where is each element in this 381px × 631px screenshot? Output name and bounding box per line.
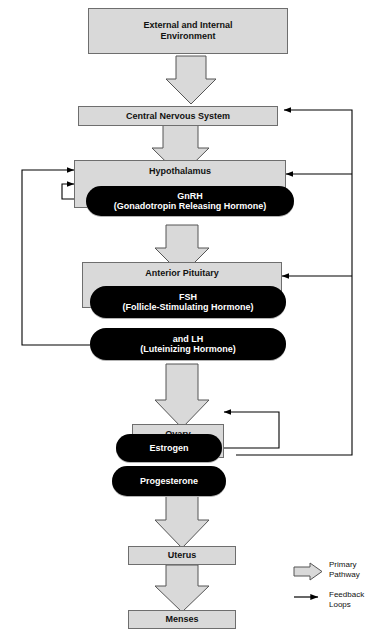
pill-fsh-line1: FSH: [179, 292, 197, 303]
legend-primary-line2: Pathway: [329, 570, 360, 580]
box-external-environment-line1: External and Internal: [143, 20, 232, 31]
arrow-external-to-cns: [166, 56, 216, 104]
pill-lh-line2: (Luteinizing Hormone): [140, 344, 236, 355]
pill-estrogen: Estrogen: [116, 434, 222, 462]
box-uterus: Uterus: [128, 546, 236, 565]
legend-feedback-line1: Feedback: [329, 590, 364, 600]
pill-progesterone-label: Progesterone: [140, 476, 198, 487]
box-central-nervous-system-label: Central Nervous System: [126, 111, 230, 122]
feedback-estrogen-to-ovary: [222, 412, 279, 448]
legend-glyphs: [294, 563, 322, 597]
box-external-environment: External and Internal Environment: [88, 8, 288, 54]
pill-fsh: FSH (Follicle-Stimulating Hormone): [90, 286, 286, 318]
pill-fsh-line2: (Follicle-Stimulating Hormone): [122, 302, 253, 313]
box-menses-label: Menses: [165, 614, 198, 625]
box-anterior-pituitary-label: Anterior Pituitary: [145, 268, 219, 279]
pill-gnrh-line1: GnRH: [177, 191, 203, 202]
box-hypothalamus-label: Hypothalamus: [149, 166, 211, 177]
legend-feedback-line2: Loops: [329, 600, 364, 610]
arrow-uterus-to-menses: [155, 565, 209, 612]
pill-gnrh-line2: (Gonadotropin Releasing Hormone): [114, 201, 267, 212]
pill-estrogen-label: Estrogen: [149, 443, 188, 454]
pill-progesterone: Progesterone: [112, 466, 226, 496]
legend-primary-line1: Primary: [329, 560, 360, 570]
box-menses: Menses: [128, 610, 236, 629]
pill-lh-line1: and LH: [173, 334, 204, 345]
arrow-ovary-to-uterus: [155, 494, 209, 548]
legend-primary-pathway: Primary Pathway: [329, 560, 360, 579]
legend-feedback-loops: Feedback Loops: [329, 590, 364, 609]
box-external-environment-line2: Environment: [160, 31, 215, 42]
diagram-canvas: External and Internal Environment Centra…: [0, 0, 381, 631]
pill-lh: and LH (Luteinizing Hormone): [90, 328, 286, 360]
arrow-lh-to-ovary: [155, 364, 209, 428]
box-central-nervous-system: Central Nervous System: [78, 106, 278, 126]
legend-primary-arrow-icon: [294, 563, 322, 580]
pill-gnrh: GnRH (Gonadotropin Releasing Hormone): [86, 186, 294, 216]
box-uterus-label: Uterus: [168, 550, 197, 561]
